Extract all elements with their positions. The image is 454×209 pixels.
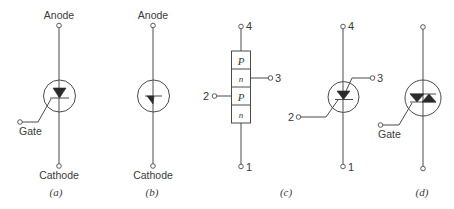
terminal-1-symbol [341, 164, 346, 169]
terminal-2-symbol [296, 115, 301, 120]
gate-lead-a [22, 99, 51, 122]
layer-p-lower: P [237, 91, 245, 103]
gate-lead-d [383, 103, 412, 125]
panel-a: Anode Gate Cathode (a) [18, 9, 79, 199]
cathode-terminal-a [57, 164, 62, 169]
terminal-4-structure [239, 24, 244, 29]
terminal-1-label-symbol: 1 [348, 161, 354, 173]
terminal-1-structure [239, 164, 244, 169]
gate-terminal-d [378, 123, 383, 128]
gate-label-d: Gate [378, 128, 401, 140]
terminal-2-label-symbol: 2 [288, 111, 294, 123]
anode-label-b: Anode [138, 9, 169, 21]
terminal-3-structure [268, 76, 273, 81]
cathode-label-a: Cathode [39, 169, 79, 181]
terminal-4-label-structure: 4 [246, 20, 252, 32]
panel-c-structure: 4 P n P n 3 2 1 [203, 20, 281, 173]
panel-c-symbol: 4 1 3 2 (c) [280, 20, 383, 199]
caption-c: (c) [280, 186, 293, 199]
caption-b: (b) [146, 186, 159, 199]
terminal-3-symbol [370, 76, 375, 81]
caption-d: (d) [416, 186, 429, 199]
mt1-terminal-d [421, 166, 426, 171]
terminal-3-label-symbol: 3 [377, 72, 383, 84]
anode-terminal-a [57, 23, 62, 28]
anode-gate-lead [346, 78, 370, 91]
diode-triangle-icon-c [337, 91, 350, 100]
gate-terminal-a [18, 120, 23, 125]
cathode-gate-lead [301, 100, 338, 117]
layer-n-bottom: n [239, 110, 244, 120]
cathode-terminal-b [151, 164, 156, 169]
anode-label-a: Anode [44, 9, 75, 21]
terminal-2-label-structure: 2 [203, 90, 209, 102]
terminal-4-symbol [341, 24, 346, 29]
terminal-4-label-symbol: 4 [348, 20, 354, 32]
wedge-icon-b [147, 96, 154, 104]
caption-a: (a) [50, 186, 63, 199]
anode-terminal-b [151, 23, 156, 28]
cathode-label-b: Cathode [133, 169, 173, 181]
diode-triangle-icon-a [53, 88, 66, 98]
triangle-up-icon-d [422, 94, 436, 102]
panel-d: Gate (d) [378, 25, 441, 199]
terminal-2-structure [212, 94, 217, 99]
panel-b: Anode Cathode (b) [133, 9, 173, 199]
terminal-1-label-structure: 1 [246, 161, 252, 173]
mt2-terminal-d [421, 25, 426, 30]
layer-n-upper: n [239, 74, 244, 84]
layer-p-top: P [237, 55, 245, 67]
terminal-3-label-structure: 3 [275, 72, 281, 84]
gate-label-a: Gate [19, 125, 42, 137]
triangle-down-icon-d [410, 94, 424, 102]
thyristor-diagram: Anode Gate Cathode (a) Anode Cathode (b)… [0, 0, 454, 209]
